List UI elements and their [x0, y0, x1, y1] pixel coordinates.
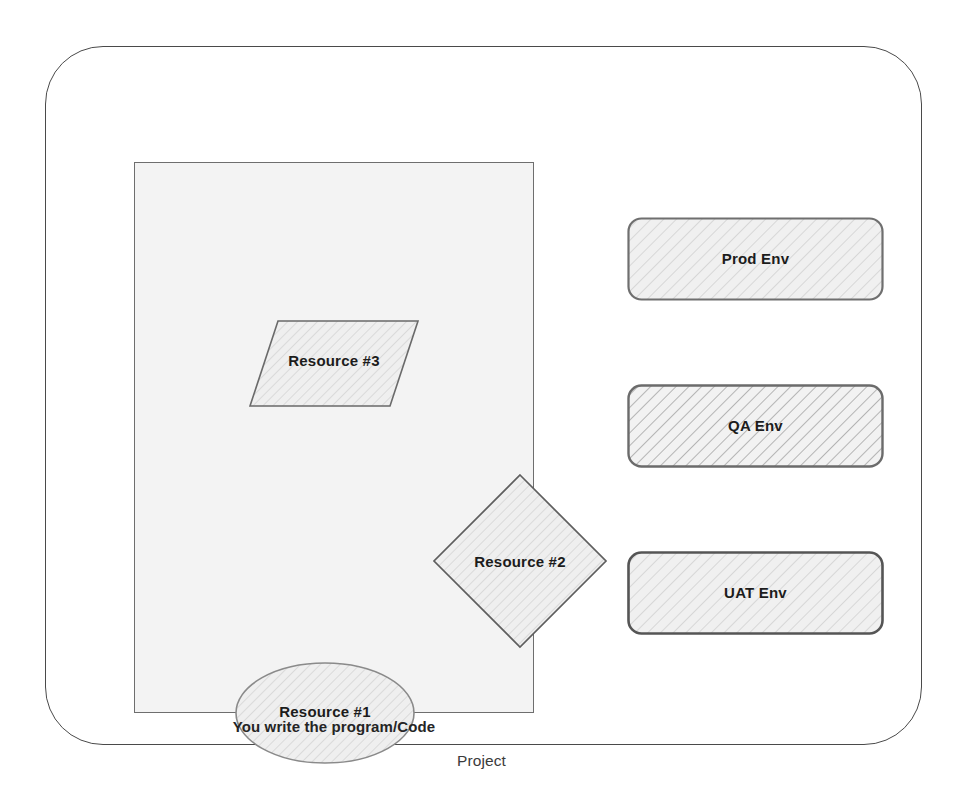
diamond-shape [432, 473, 608, 649]
code-panel-caption: You write the program/Code [134, 718, 534, 735]
env-box-prod[interactable]: Prod Env [627, 217, 884, 301]
env-box-qa[interactable]: QA Env [627, 384, 884, 468]
env-box-uat[interactable]: UAT Env [627, 551, 884, 635]
rounded-rectangle-shape [627, 217, 884, 301]
code-panel: Resource #3 Resource #2 Resource #1 [134, 162, 534, 713]
parallelogram-shape [249, 320, 419, 407]
project-caption: Project [0, 752, 963, 770]
project-container: Resource #3 Resource #2 Resource #1 You … [45, 46, 922, 745]
resource-2-diamond[interactable]: Resource #2 [432, 473, 608, 649]
resource-3-parallelogram[interactable]: Resource #3 [249, 320, 419, 407]
rounded-rectangle-shape [627, 551, 884, 635]
resource-1-ellipse[interactable]: Resource #1 [234, 661, 416, 765]
rounded-rectangle-shape [627, 384, 884, 468]
ellipse-shape [234, 661, 416, 765]
